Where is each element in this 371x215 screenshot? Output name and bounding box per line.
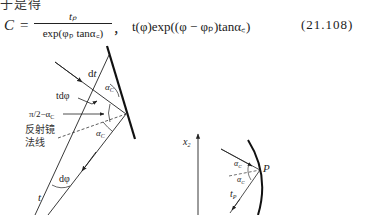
label-dphi: dφ [59, 173, 70, 184]
left-diagram: dt αC tdφ π/2−αC 反射镜 法线 αC dφ t [25, 46, 135, 215]
angle-arc-complement [109, 104, 111, 122]
label-x2-axis: x2 [182, 136, 190, 148]
label-point-p: P [262, 162, 270, 174]
mirror-normal-dashed [58, 114, 126, 138]
label-tp: tP [230, 188, 237, 200]
angle-arc-bottom [103, 122, 112, 131]
tp-ray-arrow [232, 199, 240, 210]
normal-dashed-right [229, 170, 260, 176]
label-alpha-top-right: αC [234, 159, 242, 169]
label-t-dphi: tdφ [56, 90, 70, 101]
reflector-geometry-figure: dt αC tdφ π/2−αC 反射镜 法线 αC dφ t x2 αC αC… [0, 0, 371, 215]
label-dt: dt [88, 67, 98, 79]
incoming-ray-arrow [55, 62, 82, 82]
label-alpha-bottom: αC [96, 128, 106, 139]
label-mirror-normal-line2: 法线 [25, 136, 45, 148]
label-alpha-top: αC [105, 82, 115, 93]
reflected-ray-arrow [82, 152, 96, 171]
right-diagram: x2 αC αC P tP [182, 134, 270, 215]
angle-arc-dphi [52, 185, 70, 188]
label-mirror-normal-line1: 反射镜 [25, 123, 55, 135]
label-alpha-bottom-right: αC [237, 175, 245, 185]
label-pi-over-2-minus-alpha: π/2−αC [29, 109, 54, 120]
